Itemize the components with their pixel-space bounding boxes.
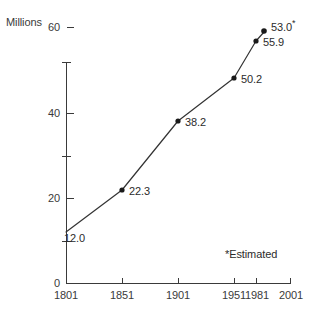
y-axis-label-20: 20 (40, 193, 60, 204)
data-point-1901 (175, 118, 180, 123)
data-point-1851 (119, 187, 124, 192)
y-axis-title: Millions (6, 17, 42, 28)
y-axis-label-0: 0 (40, 278, 60, 289)
x-axis-label-2001: 2001 (271, 290, 311, 301)
data-label-38-2: 38.2 (185, 117, 206, 128)
data-point-1951 (231, 75, 236, 80)
estimated-footnote: *Estimated (225, 249, 277, 260)
data-label-53-0-value: 53.0 (271, 21, 292, 33)
y-axis-label-60: 60 (40, 22, 60, 33)
data-point-1981 (253, 38, 258, 43)
data-label-55-9: 55.9 (263, 37, 284, 48)
x-axis-label-1851: 1851 (102, 290, 142, 301)
data-point-2001 (261, 28, 267, 34)
population-line-chart: Millions 60 40 20 0 1801 1851 1901 1951 … (0, 0, 319, 314)
x-axis-label-1901: 1901 (158, 290, 198, 301)
data-label-50-2: 50.2 (241, 74, 262, 85)
x-axis-label-1801: 1801 (46, 290, 86, 301)
estimated-asterisk-icon: * (292, 18, 295, 28)
y-axis-label-40: 40 (40, 108, 60, 119)
series-line-population (66, 32, 264, 232)
data-label-12-0: 12.0 (64, 233, 85, 244)
data-label-22-3: 22.3 (129, 186, 150, 197)
data-label-53-0-estimated: 53.0* (271, 22, 295, 33)
